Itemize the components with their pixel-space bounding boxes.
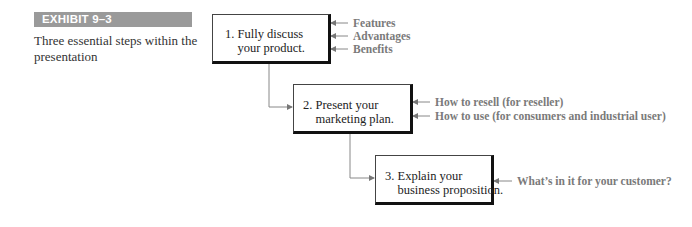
connector-step1-to-step2 bbox=[269, 61, 292, 107]
step-1-box: 1. Fully discuss your product. bbox=[212, 14, 331, 64]
step-2-text: 2. Present your marketing plan. bbox=[303, 98, 394, 126]
input-benefits: Benefits bbox=[353, 43, 393, 56]
input-advantages: Advantages bbox=[353, 30, 411, 43]
input-whats-in-it: What’s in it for your customer? bbox=[517, 175, 672, 188]
step-3-box: 3. Explain your business proposition. bbox=[375, 155, 494, 205]
step-2-box: 2. Present your marketing plan. bbox=[293, 84, 413, 134]
step-3-text: 3. Explain your business proposition. bbox=[385, 169, 503, 197]
step-1-text: 1. Fully discuss your product. bbox=[225, 27, 305, 55]
connector-step2-to-step3 bbox=[350, 133, 374, 178]
input-how-to-resell: How to resell (for reseller) bbox=[435, 96, 563, 109]
input-features: Features bbox=[353, 17, 396, 30]
input-how-to-use: How to use (for consumers and industrial… bbox=[435, 110, 666, 123]
